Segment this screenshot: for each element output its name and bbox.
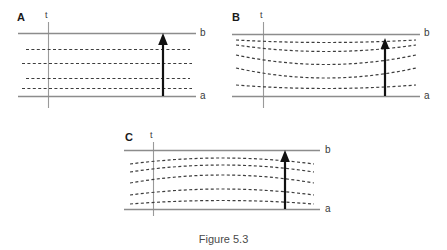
panel-c-plot bbox=[112, 120, 342, 230]
panel-c-contour bbox=[130, 189, 314, 195]
panel-c-contour bbox=[130, 165, 314, 172]
panel-a-plot bbox=[0, 0, 224, 120]
figure-caption: Figure 5.3 bbox=[0, 234, 447, 245]
panel-b: B t b a bbox=[224, 0, 447, 120]
figure-5-3: A t b a B t b a bbox=[0, 0, 447, 250]
panel-c-contour bbox=[130, 175, 314, 183]
panel-a-up-arrow bbox=[158, 33, 168, 96]
panel-a: A t b a bbox=[0, 0, 224, 120]
panel-c-contour bbox=[130, 201, 314, 205]
panel-b-plot bbox=[224, 0, 447, 120]
panel-c: C t b a bbox=[112, 120, 342, 230]
